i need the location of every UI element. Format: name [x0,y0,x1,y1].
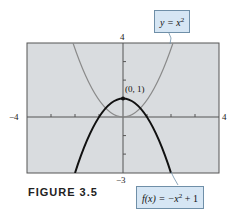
callout-f-label-main: f(x) = −x [142,193,179,204]
annotation-vertex-label: (0, 1) [125,84,145,94]
callout-y-equals-x-squared: y = x2 [154,10,190,33]
callout-y-label-main: y = x [160,17,181,28]
tick-label-x-min: −4 [9,112,19,122]
callout-f-of-x: f(x) = −x2 + 1 [136,186,204,209]
callout-f-label-tail: + 1 [182,193,198,204]
callout-leader-bottom [171,172,178,185]
figure-caption: FIGURE 3.5 [28,186,98,198]
tick-label-y-min: −3 [116,175,126,185]
tick-label-y-max: 4 [120,32,125,42]
tick-label-x-max: 4 [222,112,227,122]
vertex-point [121,97,125,101]
callout-y-label-sup: 2 [181,16,185,24]
